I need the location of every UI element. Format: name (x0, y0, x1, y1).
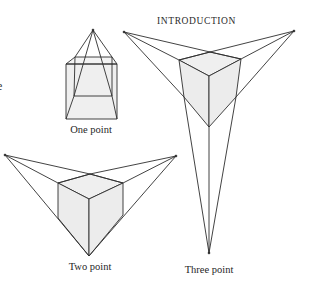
caption-two-point: Two point (69, 261, 112, 272)
one-point-front-face (66, 64, 117, 119)
three-point-ray (124, 32, 210, 52)
three-point-right-vanishing-point (293, 30, 295, 32)
three-point-ray (241, 31, 294, 59)
two-point-left-vanishing-point (4, 154, 6, 156)
perspective-diagrams (0, 0, 316, 286)
two-point-ray (5, 155, 90, 174)
one-point-top-face (66, 57, 117, 64)
three-point-ray (236, 31, 294, 97)
three-point-bottom-vanishing-point (208, 252, 210, 254)
three-point-left-vanishing-point (123, 31, 125, 33)
caption-one-point: One point (70, 124, 112, 135)
one-point-ray (75, 30, 93, 57)
three-point-figure (123, 30, 295, 254)
one-point-figure (66, 29, 117, 119)
one-point-vanishing-point (92, 29, 94, 31)
two-point-ray (123, 156, 176, 183)
three-point-ray (124, 32, 184, 97)
three-point-ray (124, 32, 179, 60)
three-point-ray (210, 31, 294, 52)
two-point-right-vanishing-point (175, 155, 177, 157)
two-point-ray (5, 155, 58, 183)
one-point-ray (93, 30, 112, 57)
caption-three-point: Three point (185, 264, 234, 275)
two-point-figure (4, 154, 177, 256)
